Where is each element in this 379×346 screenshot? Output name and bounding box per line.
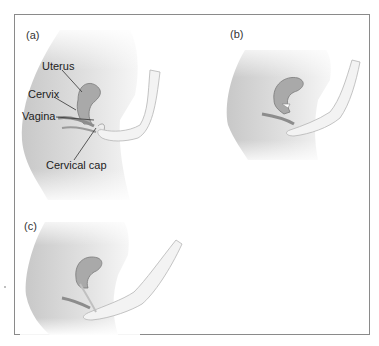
label-cervix: Cervix <box>28 88 59 100</box>
panel-label-b: (b) <box>230 28 243 40</box>
label-uterus: Uterus <box>42 60 74 72</box>
label-cervical-cap: Cervical cap <box>46 159 107 171</box>
panel-label-c: (c) <box>24 220 37 232</box>
panel-label-a: (a) <box>26 29 39 41</box>
label-vagina: Vagina <box>22 110 55 122</box>
panel-a: (a) Uterus Cervix Vagina Cervical cap <box>0 0 190 200</box>
panel-b-illustration <box>190 0 379 200</box>
panel-c: (c) <box>0 200 190 346</box>
panel-b: (b) <box>190 0 379 200</box>
